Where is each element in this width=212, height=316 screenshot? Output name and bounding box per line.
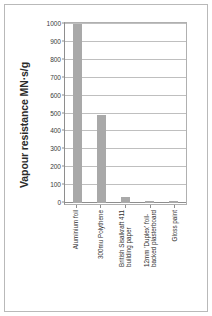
plot-area: 10009008007006005004003002001000 xyxy=(64,22,187,205)
bar-slot xyxy=(113,23,137,203)
x-axis-category-label-line: Aluminium foil xyxy=(73,210,80,249)
x-label-slot: 12mm 'Duplex' foil-backed plasterboard xyxy=(138,210,163,308)
y-axis-tick-label: 300 xyxy=(50,145,61,152)
x-axis-tick-mark xyxy=(100,205,101,208)
y-axis-title: Vapour resistance MN·s/g xyxy=(18,62,30,188)
x-label-slot: 300mu Polythene xyxy=(89,210,114,308)
x-axis-tick-mark xyxy=(76,205,77,208)
bar[interactable] xyxy=(121,197,130,203)
chart-figure: Vapour resistance MN·s/g 100090080070060… xyxy=(4,4,208,312)
x-tick-slot xyxy=(89,205,114,209)
x-axis-category-label-line: backed plasterboard xyxy=(150,210,157,267)
bar-slot xyxy=(138,23,162,203)
x-axis-category-label-line: 12mm 'Duplex' foil- xyxy=(143,214,150,267)
y-axis-tick-label: 400 xyxy=(50,127,61,134)
x-axis-category-label-line: building paper xyxy=(125,210,132,267)
x-axis-tick-mark xyxy=(174,205,175,208)
bars-group xyxy=(65,23,186,203)
x-axis-category-label: Aluminium foil xyxy=(73,210,80,249)
x-tick-slot xyxy=(113,205,138,209)
x-axis-category-label: 12mm 'Duplex' foil-backed plasterboard xyxy=(143,210,158,267)
x-tick-slot xyxy=(138,205,163,209)
y-axis-tick-label: 0 xyxy=(57,199,61,206)
y-axis-tick-label: 800 xyxy=(50,55,61,62)
bar[interactable] xyxy=(73,24,82,203)
y-axis-tick-label: 100 xyxy=(50,181,61,188)
x-label-slot: Gloss paint xyxy=(162,210,187,308)
x-axis-tick-marks xyxy=(64,205,187,209)
y-axis-tick-label: 500 xyxy=(50,109,61,116)
y-axis-tick-label: 600 xyxy=(50,91,61,98)
y-axis-tick-label: 200 xyxy=(50,163,61,170)
bar-slot xyxy=(89,23,113,203)
y-axis-tick-label: 1000 xyxy=(47,20,61,27)
x-axis-category-labels: Aluminium foil300mu PolytheneBritish Sis… xyxy=(64,210,187,308)
bar-slot xyxy=(65,23,89,203)
y-axis-tick-label: 900 xyxy=(50,37,61,44)
x-axis-tick-mark xyxy=(150,205,151,208)
y-axis-title-container: Vapour resistance MN·s/g xyxy=(15,35,33,215)
bar[interactable] xyxy=(97,115,106,203)
x-axis-category-label-line: Gloss paint xyxy=(171,210,178,242)
bar[interactable] xyxy=(145,201,154,203)
x-tick-slot xyxy=(162,205,187,209)
x-axis-category-label: 300mu Polythene xyxy=(97,210,104,259)
x-tick-slot xyxy=(64,205,89,209)
x-axis-category-label: British Sisalkraft 411building paper xyxy=(118,210,133,267)
x-label-slot: British Sisalkraft 411building paper xyxy=(113,210,138,308)
bar-slot xyxy=(162,23,186,203)
x-axis-tick-mark xyxy=(125,205,126,208)
x-label-slot: Aluminium foil xyxy=(64,210,89,308)
bar[interactable] xyxy=(169,201,178,203)
x-axis-category-label-line: 300mu Polythene xyxy=(97,210,104,259)
y-axis-tick-label: 700 xyxy=(50,73,61,80)
x-axis-category-label: Gloss paint xyxy=(171,210,178,242)
